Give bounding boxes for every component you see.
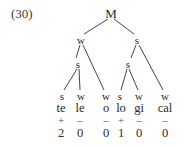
stress-value: 0 <box>77 127 83 140</box>
syllable: lo <box>116 102 126 115</box>
edge <box>129 69 138 90</box>
syllable: o <box>103 102 109 115</box>
stress-value: 0 <box>136 127 142 140</box>
syllable: le <box>75 102 84 115</box>
syllable: gi <box>134 102 144 115</box>
stress-sign: – <box>103 115 109 126</box>
stress-sign: + <box>58 115 64 126</box>
tree-node-root: M <box>105 7 117 20</box>
stress-sign: + <box>118 115 124 126</box>
edge <box>79 69 80 90</box>
edge <box>114 19 134 34</box>
stress-value: 1 <box>118 127 124 140</box>
stress-value: 0 <box>103 127 109 140</box>
edge <box>76 45 80 58</box>
edge <box>139 45 163 90</box>
stress-value: 0 <box>162 127 168 140</box>
stress-sign: – <box>162 115 168 126</box>
edge <box>84 19 108 34</box>
stress-sign: – <box>136 115 142 126</box>
tree-node-strong: s <box>76 59 80 70</box>
stress-value: 2 <box>58 127 64 140</box>
edge <box>131 45 136 58</box>
edge <box>121 69 127 90</box>
edge <box>64 69 77 90</box>
tree-node-strong: s <box>135 35 139 46</box>
edge <box>83 45 104 90</box>
syllable: cal <box>158 102 173 115</box>
stress-sign: – <box>77 115 83 126</box>
tree-node-weak: w <box>77 35 85 46</box>
tree-node-strong: s <box>126 59 130 70</box>
tree-edges <box>0 0 184 147</box>
syllable: te <box>56 102 65 115</box>
